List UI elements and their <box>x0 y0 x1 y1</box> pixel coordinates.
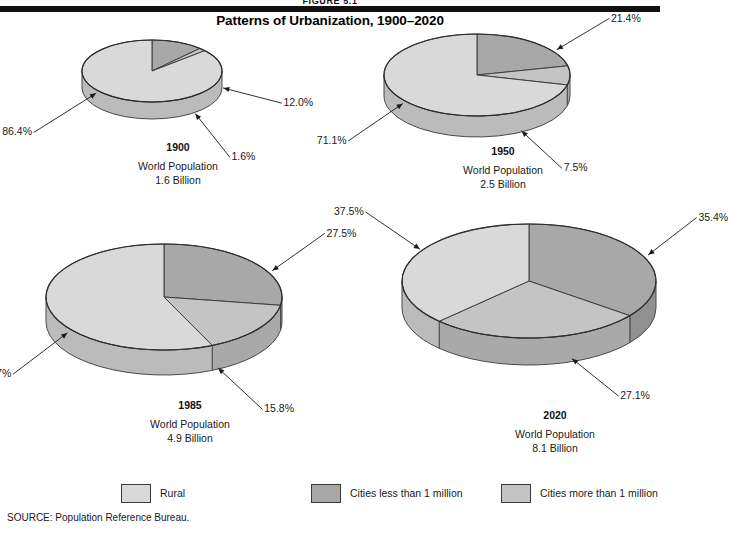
pie-value-label: 21.4% <box>611 12 641 24</box>
pie-slice-cities-less-than-1-million <box>164 244 282 305</box>
chart-caption-1985: 1985World Population4.9 Billion <box>12 398 368 446</box>
chart-caption-line2: 1.6 Billion <box>48 173 308 187</box>
callout-arrow <box>413 244 419 250</box>
legend-item-cities_more: Cities more than 1 million <box>501 478 658 508</box>
chart-caption-line2: 2.5 Billion <box>350 177 656 191</box>
legend-item-cities_less: Cities less than 1 million <box>311 478 463 508</box>
pie-value-label: 37.5% <box>334 205 364 217</box>
legend-swatch-rural <box>121 484 151 503</box>
callout-leader <box>13 333 67 374</box>
chart-caption-1900: 1900World Population1.6 Billion <box>48 140 308 188</box>
chart-year: 2020 <box>368 408 733 422</box>
legend-swatch-cities_more <box>501 484 531 503</box>
chart-caption-1950: 1950World Population2.5 Billion <box>350 144 656 192</box>
legend-label-cities_less: Cities less than 1 million <box>350 487 463 499</box>
chart-year: 1985 <box>12 398 368 412</box>
chart-year: 1950 <box>350 144 656 158</box>
chart-caption-line2: 4.9 Billion <box>12 431 368 445</box>
chart-caption-line1: World Population <box>368 427 733 441</box>
source-note: SOURCE: Population Reference Bureau. <box>7 512 189 523</box>
callout-leader <box>648 218 696 255</box>
chart-caption-line1: World Population <box>12 417 368 431</box>
callout-leader <box>557 19 609 50</box>
pie-chart-1950: 21.4%7.5%71.1%1950World Population2.5 Bi… <box>350 22 656 205</box>
callout-arrow <box>648 249 654 255</box>
callout-arrow <box>223 87 229 92</box>
pie-value-label: 27.5% <box>327 227 357 239</box>
chart-caption-2020: 2020World Population8.1 Billion <box>368 408 733 456</box>
pie-chart-1900: 12.0%1.6%86.4%1900World Population1.6 Bi… <box>48 28 308 187</box>
callout-arrow <box>557 44 563 49</box>
callout-arrow <box>273 265 279 271</box>
chart-caption-line1: World Population <box>350 163 656 177</box>
callout-leader <box>572 359 618 396</box>
pie-value-label: 86.4% <box>2 125 32 137</box>
legend-item-rural: Rural <box>121 478 185 508</box>
chart-year: 1900 <box>48 140 308 154</box>
pie-value-label: 56.7% <box>0 367 11 379</box>
chart-caption-line2: 8.1 Billion <box>368 441 733 455</box>
pie-value-label: 71.1% <box>317 134 347 146</box>
legend-label-rural: Rural <box>160 487 185 499</box>
legend-swatch-cities_less <box>311 484 341 503</box>
callout-leader <box>223 88 281 103</box>
chart-caption-line1: World Population <box>48 159 308 173</box>
callout-leader <box>34 93 96 132</box>
legend-label-cities_more: Cities more than 1 million <box>540 487 658 499</box>
chart-legend: RuralCities less than 1 millionCities mo… <box>0 478 660 508</box>
callout-leader <box>366 212 420 249</box>
callout-leader <box>273 234 325 271</box>
pie-value-label: 27.1% <box>620 389 650 401</box>
title-rule <box>0 6 660 12</box>
callout-leader <box>349 104 403 141</box>
pie-value-label: 35.4% <box>698 211 728 223</box>
pie-chart-1985: 27.5%15.8%56.7%1985World Population4.9 B… <box>12 232 368 443</box>
pie-value-label: 12.0% <box>283 96 313 108</box>
callout-arrow <box>195 114 201 120</box>
pie-chart-2020: 35.4%27.1%37.5%2020World Population8.1 B… <box>368 212 733 433</box>
